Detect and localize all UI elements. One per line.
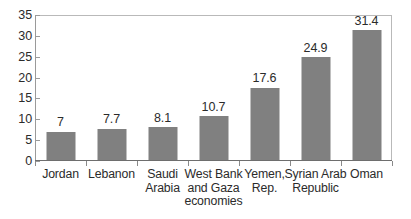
x-tick-mark xyxy=(137,161,138,166)
bar-group: 17.6 xyxy=(239,15,290,161)
bar-value-label: 24.9 xyxy=(304,42,328,55)
y-tick-label: 20 xyxy=(0,72,32,85)
y-tick-label: 15 xyxy=(0,92,32,105)
bar-value-label: 31.4 xyxy=(355,15,379,28)
y-tick-mark xyxy=(35,57,40,58)
y-tick-label: 0 xyxy=(0,155,32,168)
x-category-label-line: Republic xyxy=(284,182,347,196)
x-tick-mark xyxy=(35,161,36,166)
bar xyxy=(199,116,228,161)
y-tick-mark xyxy=(35,119,40,120)
bar-value-label: 10.7 xyxy=(202,101,226,114)
bar-group: 7 xyxy=(35,15,86,161)
x-tick-mark xyxy=(86,161,87,166)
x-category-label: Oman xyxy=(335,168,398,182)
y-tick-mark xyxy=(35,98,40,99)
y-tick-label: 10 xyxy=(0,113,32,126)
bar-chart: 05101520253035 77.78.110.717.624.931.4 J… xyxy=(0,0,411,219)
bar-group: 8.1 xyxy=(137,15,188,161)
bar-value-label: 17.6 xyxy=(253,72,277,85)
bars-layer: 77.78.110.717.624.931.4 xyxy=(35,15,392,161)
bar xyxy=(352,30,381,161)
bar xyxy=(301,57,330,161)
x-tick-mark xyxy=(188,161,189,166)
y-tick-label: 5 xyxy=(0,134,32,147)
y-tick-mark xyxy=(35,36,40,37)
x-axis-labels: JordanLebanonSaudiArabiaWest Bankand Gaz… xyxy=(35,168,392,219)
x-tick-mark xyxy=(290,161,291,166)
x-tick-mark xyxy=(392,161,393,166)
bar xyxy=(46,132,75,161)
bar-group: 10.7 xyxy=(188,15,239,161)
x-category-label-line: economies xyxy=(182,195,245,209)
y-tick-mark xyxy=(35,15,40,16)
bar-value-label: 7 xyxy=(57,116,64,129)
x-axis-baseline xyxy=(35,160,392,161)
bar xyxy=(250,88,279,161)
x-category-label-line: Oman xyxy=(335,168,398,182)
x-tick-mark xyxy=(239,161,240,166)
bar-group: 7.7 xyxy=(86,15,137,161)
bar xyxy=(97,129,126,161)
y-tick-mark xyxy=(35,140,40,141)
y-tick-label: 35 xyxy=(0,9,32,22)
x-tick-mark xyxy=(341,161,342,166)
bar-value-label: 7.7 xyxy=(103,113,120,126)
bar-value-label: 8.1 xyxy=(154,112,171,125)
bar-group: 31.4 xyxy=(341,15,392,161)
y-axis: 05101520253035 xyxy=(0,0,32,219)
y-tick-mark xyxy=(35,78,40,79)
y-tick-label: 25 xyxy=(0,51,32,64)
bar xyxy=(148,127,177,161)
bar-group: 24.9 xyxy=(290,15,341,161)
y-tick-label: 30 xyxy=(0,30,32,43)
